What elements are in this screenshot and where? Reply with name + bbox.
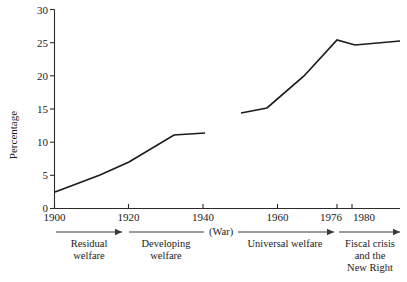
data-line-postwar (241, 40, 400, 113)
x-tick-label-1940: 1940 (192, 211, 215, 223)
x-tick-label-1900: 1900 (44, 211, 67, 223)
y-axis-label: Percentage (7, 111, 19, 159)
phase-label-fiscal-line2: and the (355, 250, 386, 261)
phase-label-fiscal-line1: Fiscal crisis (345, 238, 395, 249)
war-annotation: (War) (209, 226, 234, 238)
chart-svg: Percentage 30 25 20 15 10 5 0 1900 1920 … (0, 0, 407, 282)
phase-label-residual-line2: welfare (73, 250, 105, 261)
data-line-prewar (55, 133, 205, 192)
y-tick-label-20: 20 (37, 70, 49, 82)
x-tick-label-1976: 1976 (320, 211, 343, 223)
chart-figure: Percentage 30 25 20 15 10 5 0 1900 1920 … (0, 0, 407, 282)
x-tick-label-1960: 1960 (267, 211, 290, 223)
y-tick-label-10: 10 (37, 136, 49, 148)
y-tick-label-15: 15 (37, 103, 49, 115)
phase-label-fiscal-line3: New Right (347, 262, 393, 273)
x-tick-label-1980: 1980 (353, 211, 376, 223)
phase-arrow-fiscal-icon (393, 229, 400, 235)
phase-arrow-universal-icon (327, 229, 334, 235)
x-tick-label-1920: 1920 (118, 211, 141, 223)
y-tick-label-25: 25 (37, 37, 49, 49)
phase-label-universal-line1: Universal welfare (248, 238, 323, 249)
y-tick-label-30: 30 (37, 4, 49, 16)
y-tick-label-5: 5 (43, 169, 49, 181)
phase-label-developing-line2: welfare (150, 250, 182, 261)
phase-label-residual-line1: Residual (71, 238, 108, 249)
phase-arrow-residual-icon (115, 229, 122, 235)
phase-label-developing-line1: Developing (142, 238, 192, 249)
